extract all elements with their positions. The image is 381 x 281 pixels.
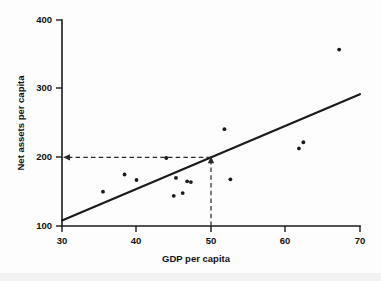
data-points-group: [101, 48, 341, 198]
x-axis-title: GDP per capita: [162, 253, 231, 264]
guide-arrow-left: [63, 154, 70, 160]
x-tick-label-30: 30: [57, 235, 68, 246]
data-point-10: [228, 177, 232, 181]
y-tick-label-400: 400: [36, 14, 52, 25]
x-tick-label-50: 50: [206, 235, 217, 246]
data-point-12: [301, 140, 305, 144]
data-point-1: [123, 173, 127, 177]
x-tick-label-40: 40: [131, 235, 142, 246]
chart-canvas: 100 200 300 400 30 40 50 60 70 GDP per c…: [0, 0, 381, 281]
y-axis-title: Net assets per capita: [15, 75, 26, 171]
data-point-5: [174, 176, 178, 180]
data-point-8: [189, 180, 193, 184]
data-point-11: [297, 147, 301, 151]
y-tick-label-200: 200: [36, 151, 52, 162]
data-point-3: [164, 156, 168, 160]
page-edge-strip: [0, 273, 381, 281]
x-tick-label-70: 70: [355, 235, 366, 246]
y-tick-label-100: 100: [36, 220, 52, 231]
data-point-0: [101, 190, 105, 194]
data-point-9: [223, 127, 227, 131]
y-tick-label-300: 300: [36, 82, 52, 93]
x-tick-label-60: 60: [280, 235, 291, 246]
data-point-13: [337, 48, 341, 52]
scatter-plot-figure: 100 200 300 400 30 40 50 60 70 GDP per c…: [0, 0, 381, 281]
data-point-7: [185, 179, 189, 183]
data-point-2: [135, 178, 139, 182]
data-point-4: [172, 194, 176, 198]
data-point-6: [181, 191, 185, 195]
